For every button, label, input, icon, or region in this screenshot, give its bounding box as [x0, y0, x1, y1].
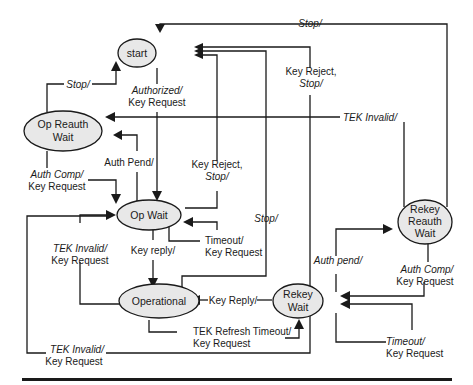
- label-tek-invalid-top: TEK Invalid/: [343, 112, 398, 123]
- bottom-rule-divider: [22, 378, 452, 381]
- label-key-reject-rekey-1: Key Reject,: [285, 66, 336, 77]
- state-diagram: start Op Reauth Wait Op Wait Operational…: [0, 0, 473, 385]
- edge-tek-refresh: [149, 320, 177, 332]
- arrow-head-icon: [340, 291, 350, 301]
- label-key-reply-lower: Key reply/: [131, 245, 176, 256]
- state-op-wait-label: Op Wait: [130, 209, 168, 221]
- arrow-head-icon: [113, 130, 122, 140]
- edge-timeout-rekey-2: [349, 304, 412, 330]
- label-tek-invalid-op-action: Key Request: [51, 255, 108, 266]
- edge-timeout-opwait: [169, 223, 200, 241]
- label-timeout-rekey-action: Key Request: [386, 348, 443, 359]
- arrow-head-icon: [155, 24, 165, 33]
- edge-auth-pend-rekey-2: [336, 229, 384, 256]
- label-authorized: Authorized/: [131, 85, 184, 96]
- label-timeout-opwait-action: Key Request: [205, 247, 262, 258]
- edge-stop-reauth: [47, 84, 64, 112]
- edge-stop-reauth-2: [92, 70, 116, 84]
- state-op-wait: Op Wait: [117, 200, 181, 230]
- state-rekey-reauth-wait-label-2: Reauth: [408, 215, 442, 227]
- state-operational: Operational: [119, 284, 199, 318]
- edge-key-reject-rekey: [202, 47, 310, 68]
- arrow-head-icon: [183, 217, 193, 227]
- arrow-head-icon: [383, 224, 393, 234]
- state-op-reauth-wait: Op Reauth Wait: [24, 111, 102, 151]
- state-rekey-reauth-wait: Rekey Reauth Wait: [398, 200, 452, 244]
- edge-key-reject-opwait-upper: [202, 55, 217, 161]
- label-auth-comp-action: Key Request: [28, 181, 85, 192]
- label-tek-refresh: TEK Refresh Timeout/: [193, 326, 292, 337]
- arrow-head-icon: [294, 319, 304, 329]
- state-start-label: start: [127, 47, 148, 59]
- state-rekey-wait-label-2: Wait: [288, 301, 309, 313]
- label-stop-operational: Stop/: [254, 213, 279, 224]
- label-auth-comp-rekey-action: Key Request: [396, 276, 453, 287]
- label-timeout-rekey: Timeout/: [386, 336, 426, 347]
- label-auth-comp: Auth Comp/: [30, 169, 85, 180]
- state-rekey-reauth-wait-label-1: Rekey: [410, 203, 441, 215]
- state-start: start: [118, 39, 156, 67]
- edge-tek-invalid-rekey-2: [27, 216, 107, 353]
- label-tek-refresh-action: Key Request: [193, 338, 250, 349]
- edge-tek-invalid-op: [80, 262, 119, 304]
- edge-auth-comp-2: [88, 180, 116, 195]
- label-authorized-action: Key Request: [128, 97, 185, 108]
- edge-timeout-rekey: [336, 313, 386, 342]
- state-rekey-wait-label-1: Rekey: [283, 288, 314, 300]
- arrow-head-icon: [111, 61, 121, 71]
- label-key-reject-opwait-2: Stop/: [205, 171, 230, 182]
- label-timeout-opwait: Timeout/: [205, 235, 244, 246]
- label-key-reject-opwait-1: Key Reject,: [191, 159, 242, 170]
- edge-timeout-opwait-2: [192, 222, 217, 230]
- label-tek-invalid-rekey: TEK Invalid/: [50, 344, 105, 355]
- label-auth-comp-rekey: Auth Comp/: [400, 264, 455, 275]
- state-rekey-reauth-wait-label-3: Wait: [415, 227, 436, 239]
- state-op-reauth-wait-label-1: Op Reauth: [38, 118, 89, 130]
- label-stop-reauth: Stop/: [66, 79, 91, 90]
- state-op-reauth-wait-label-2: Wait: [53, 131, 74, 143]
- label-auth-pend-rekey: Auth pend/: [313, 255, 364, 266]
- label-key-reject-rekey-2: Stop/: [299, 78, 324, 89]
- label-tek-invalid-rekey-action: Key Request: [45, 356, 102, 367]
- edge-auth-pend-2: [122, 135, 137, 151]
- arrow-head-icon: [105, 112, 115, 122]
- arrow-head-icon: [111, 194, 121, 204]
- state-operational-label: Operational: [132, 295, 186, 307]
- label-tek-invalid-op: TEK Invalid/: [53, 243, 108, 254]
- label-key-reply-upper: Key Reply/: [209, 295, 258, 306]
- edge-key-reject-opwait: [185, 191, 217, 208]
- state-rekey-wait: Rekey Wait: [273, 284, 323, 318]
- arrow-head-icon: [106, 210, 116, 220]
- arrow-head-icon: [340, 299, 350, 309]
- label-auth-pend: Auth Pend/: [104, 157, 154, 168]
- label-stop-top: Stop/: [298, 18, 323, 29]
